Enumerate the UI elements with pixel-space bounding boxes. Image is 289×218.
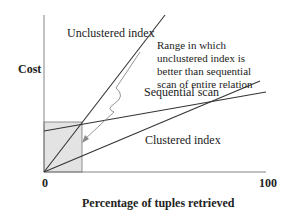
unclustered-index-label: Unclustered index — [67, 26, 155, 41]
range-annotation: Range in which unclustered index is bett… — [157, 39, 267, 91]
annotation-arrow — [84, 52, 140, 140]
y-axis-label: Cost — [18, 62, 41, 77]
x-tick-zero: 0 — [42, 176, 48, 191]
cost-vs-selectivity-diagram: Cost Unclustered index Range in which un… — [0, 0, 289, 218]
clustered-index-label: Clustered index — [145, 133, 221, 148]
x-axis-label: Percentage of tuples retrieved — [82, 196, 235, 211]
x-tick-hundred: 100 — [259, 176, 277, 191]
sequential-scan-label: Sequential scan — [144, 85, 219, 100]
